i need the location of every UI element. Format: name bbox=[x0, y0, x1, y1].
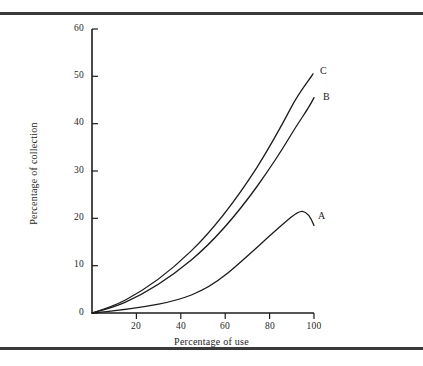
series-label-b: B bbox=[323, 91, 330, 102]
series-label-c: C bbox=[320, 65, 327, 76]
series-label-a: A bbox=[318, 210, 326, 221]
x-tick-label-80: 80 bbox=[255, 321, 285, 331]
x-tick-label-100: 100 bbox=[299, 321, 329, 331]
series-line-c bbox=[92, 74, 313, 313]
x-axis-title: Percentage of use bbox=[0, 336, 423, 347]
y-tick-label-40: 40 bbox=[58, 117, 84, 127]
y-tick-label-30: 30 bbox=[58, 165, 84, 175]
y-tick-label-10: 10 bbox=[58, 259, 84, 269]
y-axis-ticks bbox=[92, 29, 98, 313]
series-line-b bbox=[92, 98, 314, 313]
figure-page: 60 50 40 30 20 10 0 20 40 60 80 100 C B … bbox=[0, 0, 423, 366]
y-tick-label-50: 50 bbox=[58, 70, 84, 80]
y-tick-label-60: 60 bbox=[58, 23, 84, 33]
y-tick-label-20: 20 bbox=[58, 212, 84, 222]
x-tick-label-60: 60 bbox=[210, 321, 240, 331]
series-line-a bbox=[92, 211, 314, 313]
bottom-divider-rule bbox=[0, 347, 423, 350]
x-tick-label-20: 20 bbox=[121, 321, 151, 331]
line-chart-plot bbox=[0, 16, 423, 346]
chart-figure: 60 50 40 30 20 10 0 20 40 60 80 100 C B … bbox=[0, 16, 423, 346]
y-tick-label-0: 0 bbox=[58, 307, 84, 317]
top-divider-rule bbox=[0, 12, 423, 15]
y-axis-title: Percentage of collection bbox=[28, 94, 39, 254]
x-tick-label-40: 40 bbox=[166, 321, 196, 331]
x-axis-ticks bbox=[136, 313, 314, 319]
